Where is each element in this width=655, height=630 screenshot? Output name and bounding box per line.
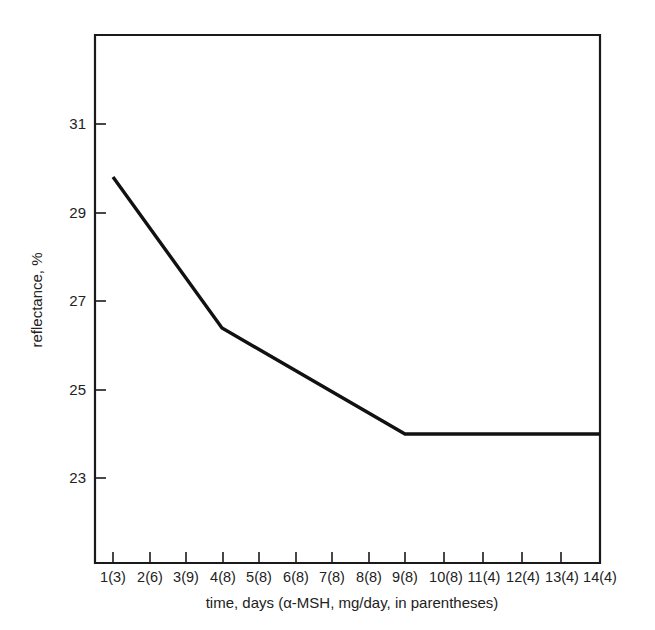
x-tick-label-7: 7(8): [319, 569, 345, 585]
x-axis-tick-labels: 1(3) 2(6) 3(9) 4(8) 5(8) 6(8) 7(8) 8(8) …: [100, 569, 617, 585]
y-axis-title: reflectance, %: [28, 252, 45, 347]
y-tick-label-27: 27: [69, 292, 86, 309]
x-tick-label-2: 2(6): [137, 569, 163, 585]
reflectance-line-chart: 31 29 27 25 23 1(3) 2(6) 3(9) 4(8) 5(8) …: [0, 0, 655, 630]
x-axis-title: time, days (α-MSH, mg/day, in parenthese…: [206, 594, 499, 611]
x-tick-label-13: 13(4): [545, 569, 579, 585]
chart-background: [0, 0, 655, 630]
y-tick-label-23: 23: [69, 469, 86, 486]
x-tick-label-5: 5(8): [246, 569, 272, 585]
y-tick-label-25: 25: [69, 381, 86, 398]
x-tick-label-10: 10(8): [429, 569, 463, 585]
x-tick-label-9: 9(8): [392, 569, 418, 585]
x-tick-label-11: 11(4): [468, 569, 501, 585]
x-tick-label-8: 8(8): [356, 569, 382, 585]
x-tick-label-14: 14(4): [583, 569, 617, 585]
y-tick-label-29: 29: [69, 204, 86, 221]
x-tick-label-3: 3(9): [173, 569, 199, 585]
x-tick-label-1: 1(3): [100, 569, 126, 585]
x-tick-label-12: 12(4): [506, 569, 540, 585]
x-tick-label-6: 6(8): [283, 569, 309, 585]
y-tick-label-31: 31: [69, 115, 86, 132]
x-tick-label-4: 4(8): [210, 569, 236, 585]
